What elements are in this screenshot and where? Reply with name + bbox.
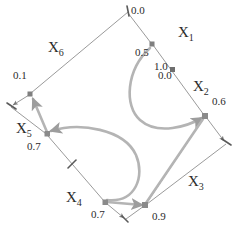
node-value-x1: 0.5 — [135, 47, 149, 58]
node-value-x4: 0.7 — [91, 209, 105, 220]
node-label-x4-sub: 4 — [77, 197, 82, 208]
curved-edges — [33, 48, 203, 205]
node-label-x1-name: X — [178, 24, 189, 40]
node-label-x3: X3 — [188, 174, 204, 192]
node-label-x5-name: X — [16, 120, 27, 136]
node-label-x2-name: X — [193, 78, 204, 94]
node-value-x3: 0.9 — [152, 211, 166, 222]
node-label-x3-name: X — [188, 173, 199, 189]
node-x4[interactable] — [103, 200, 109, 206]
node-value-x5: 0.7 — [27, 141, 41, 152]
node-label-x2: X2 — [193, 79, 209, 97]
node-label-x1-sub: 1 — [189, 32, 194, 43]
tick-top-edge — [127, 6, 129, 16]
node-label-x6-name: X — [48, 39, 59, 55]
node-label-x6-sub: 6 — [59, 47, 64, 58]
node-label-x6: X6 — [48, 40, 64, 58]
node-label-x5-sub: 5 — [27, 128, 32, 139]
edge-bottomvertex-to-x3 — [126, 206, 144, 219]
node-x1[interactable] — [150, 42, 155, 47]
node-label-x2-sub: 2 — [204, 86, 209, 97]
node-label-x1: X1 — [178, 25, 194, 43]
node-x5[interactable] — [45, 131, 51, 137]
node-label-x3-sub: 3 — [199, 181, 204, 192]
graph-svg — [0, 0, 246, 239]
diagram-canvas: X1 X2 X3 X4 X5 X6 0.5 0.6 0.9 0.7 0.7 0.… — [0, 0, 246, 239]
tick-bottomvertex-edge — [122, 216, 128, 222]
curve-x4-to-x5 — [51, 127, 139, 200]
edge-x6node-to-leftvertex — [13, 95, 29, 105]
edge-rightvertex-to-x3 — [147, 144, 226, 204]
graph-nodes — [28, 42, 209, 209]
node-label-x4-name: X — [66, 189, 77, 205]
node-label-x5: X5 — [16, 121, 32, 139]
edge-x2-to-rightvertex — [206, 117, 224, 141]
node-x6[interactable] — [28, 92, 33, 97]
thickedge-x4-to-x3 — [107, 202, 142, 205]
node-x2[interactable] — [202, 113, 208, 119]
thickedge-x6node-to-x5 — [33, 99, 47, 132]
node-label-x4: X4 — [66, 190, 82, 208]
edge-value-top: 0.0 — [131, 5, 145, 16]
node-x3[interactable] — [142, 202, 148, 208]
node-value-x2: 0.6 — [212, 96, 226, 107]
edge-top-to-x6node — [31, 12, 128, 93]
node-value-x6: 0.1 — [13, 70, 27, 81]
edge-value-x1x2-lower: 0.0 — [158, 70, 172, 81]
edge-top-to-x1 — [128, 13, 151, 43]
tick-rightvertex-edge — [222, 139, 231, 145]
